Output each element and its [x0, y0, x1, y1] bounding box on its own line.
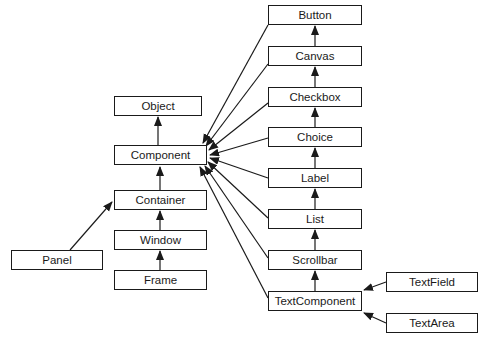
node-choice: Choice: [268, 127, 362, 147]
node-list: List: [268, 209, 362, 229]
node-panel: Panel: [11, 250, 103, 270]
edge-textarea-textcomponent: [364, 313, 386, 323]
node-checkbox: Checkbox: [268, 87, 362, 107]
node-label: Button: [298, 9, 331, 21]
node-label: Window: [140, 234, 181, 246]
edge-scrollbar-component: [205, 166, 268, 258]
node-label: Canvas: [296, 50, 335, 62]
edge-list-component: [208, 162, 268, 218]
edge-canvas-component: [206, 64, 268, 146]
node-canvas: Canvas: [268, 46, 362, 66]
node-textfield: TextField: [386, 272, 478, 292]
node-scrollbar: Scrollbar: [268, 250, 362, 270]
node-textcomponent: TextComponent: [268, 291, 362, 311]
node-label: Panel: [42, 254, 71, 266]
edge-button-component: [203, 25, 268, 143]
node-label: Object: [141, 100, 174, 112]
node-component: Component: [114, 145, 207, 165]
node-label: Choice: [297, 131, 333, 143]
node-container: Container: [114, 190, 207, 210]
node-button: Button: [268, 5, 362, 25]
edge-label-component: [210, 158, 268, 178]
node-label: Checkbox: [289, 91, 340, 103]
node-frame: Frame: [114, 270, 207, 290]
node-label: Component: [131, 149, 190, 161]
node-label: List: [306, 213, 324, 225]
node-label: TextArea: [409, 317, 454, 329]
node-window: Window: [114, 230, 207, 250]
node-label: Scrollbar: [292, 254, 337, 266]
node-label: TextField: [409, 276, 455, 288]
node-object: Object: [114, 96, 202, 116]
edge-panel-container: [70, 202, 112, 250]
node-label: TextComponent: [275, 295, 356, 307]
node-label: Container: [136, 194, 186, 206]
node-textarea: TextArea: [386, 313, 478, 333]
node-label: Label: [301, 172, 329, 184]
node-label-class: Label: [268, 168, 362, 188]
node-label: Frame: [144, 274, 177, 286]
edge-choice-component: [210, 138, 268, 155]
edge-textfield-textcomponent: [364, 282, 386, 290]
edge-checkbox-component: [209, 103, 268, 150]
